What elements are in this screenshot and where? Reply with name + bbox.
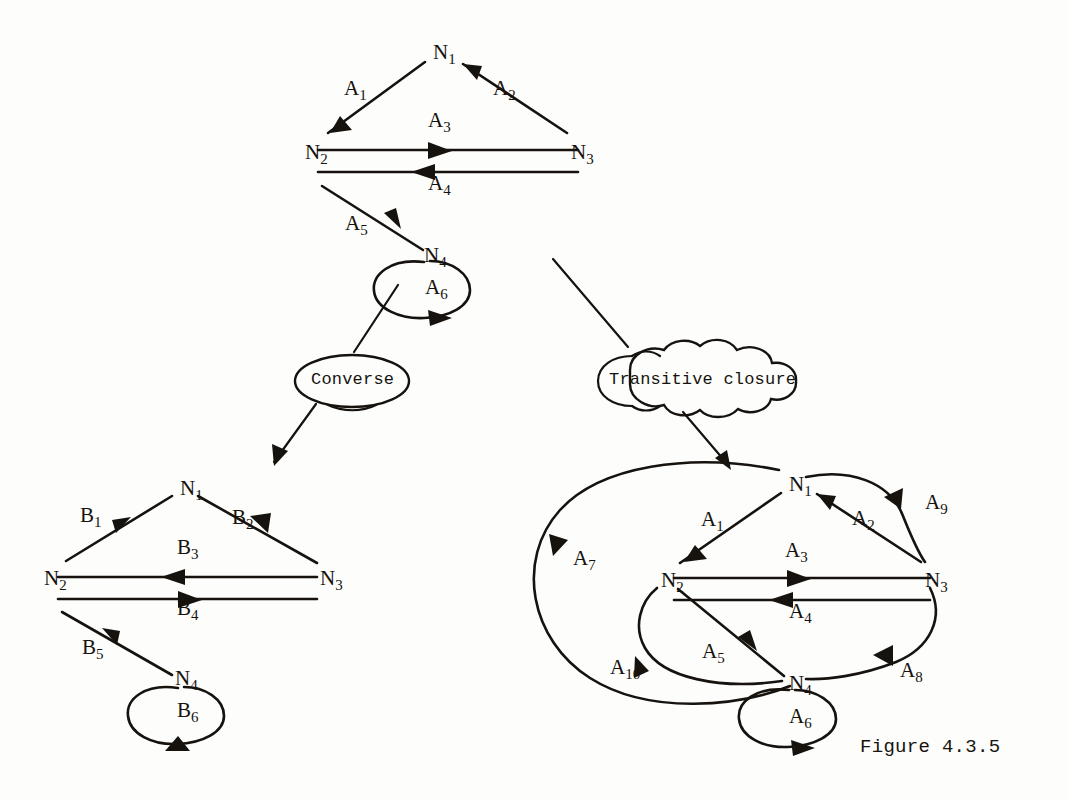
figure-canvas: N1 N2 N3 N4 A1 A2 A3 A4 A5 A6 Converse T… <box>0 0 1068 800</box>
converse-bubble-label[interactable]: Converse <box>311 371 394 388</box>
arc-label-closure-A5: A5 <box>702 641 725 662</box>
operator-connectors <box>354 259 628 352</box>
arc-label-converse-B5: B5 <box>82 637 104 658</box>
arc-label-original-A4: A4 <box>428 173 451 194</box>
node-label-original-N1: N1 <box>433 42 456 63</box>
arc-label-closure-A7: A7 <box>573 548 596 569</box>
arc-label-closure-A2: A2 <box>852 508 875 529</box>
node-label-closure-N3: N3 <box>925 570 948 591</box>
arc-label-converse-B4: B4 <box>177 598 199 619</box>
node-label-original-N3: N3 <box>571 142 594 163</box>
transitive-closure-graph-lines <box>534 462 936 756</box>
arc-label-original-A5: A5 <box>345 213 368 234</box>
converse-output-arrow <box>272 404 316 466</box>
arc-label-converse-B2: B2 <box>232 507 254 528</box>
arc-label-converse-B1: B1 <box>80 505 102 526</box>
figure-caption: Figure 4.3.5 <box>860 738 1000 757</box>
arc-label-original-A2: A2 <box>493 78 516 99</box>
node-label-converse-N1: N1 <box>180 478 203 499</box>
node-label-original-N2: N2 <box>305 142 328 163</box>
node-label-converse-N2: N2 <box>44 568 67 589</box>
node-label-closure-N1: N1 <box>789 474 812 495</box>
arc-label-original-A6: A6 <box>425 277 448 298</box>
node-label-closure-N4: N4 <box>789 673 812 694</box>
arc-label-closure-A8: A8 <box>900 660 923 681</box>
arc-label-closure-A6: A6 <box>789 706 812 727</box>
arc-label-converse-B6: B6 <box>177 700 199 721</box>
arc-label-original-A1: A1 <box>344 78 367 99</box>
arc-label-converse-B3: B3 <box>177 537 199 558</box>
arc-label-closure-A1: A1 <box>701 509 724 530</box>
arc-label-closure-A9: A9 <box>925 492 948 513</box>
arc-label-original-A3: A3 <box>428 110 451 131</box>
arc-label-closure-A3: A3 <box>785 540 808 561</box>
transitive-closure-bubble-label[interactable]: Transitive closure <box>609 371 796 388</box>
arc-label-closure-A4: A4 <box>789 601 812 622</box>
node-label-converse-N3: N3 <box>320 568 343 589</box>
node-label-original-N4: N4 <box>424 245 447 266</box>
node-label-converse-N4: N4 <box>175 668 198 689</box>
node-label-closure-N2: N2 <box>661 570 684 591</box>
arc-label-closure-A10: A10 <box>610 657 640 678</box>
